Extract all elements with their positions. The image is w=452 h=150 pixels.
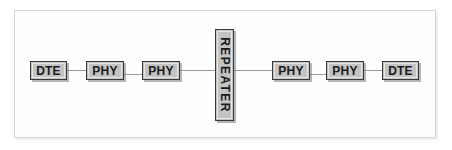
node-label-phy-right-1: PHY [278,65,303,77]
node-phy-left-2[interactable]: PHY [142,61,180,80]
node-label-repeater: REPEATER [219,37,231,113]
node-label-phy-left-2: PHY [148,65,173,77]
node-phy-left-1[interactable]: PHY [86,61,124,80]
node-phy-right-1[interactable]: PHY [272,61,310,80]
node-label-dte-right: DTE [388,65,413,77]
link-repeater-to-phy-right [234,70,272,71]
node-repeater[interactable]: REPEATER [215,29,234,121]
node-dte-left[interactable]: DTE [30,61,67,80]
link-phy-to-dte-right [364,70,382,71]
node-label-phy-right-2: PHY [332,65,357,77]
diagram-canvas: DTE PHY PHY REPEATER PHY PHY DTE [0,0,452,150]
link-phy-to-repeater-left [180,70,215,71]
link-dte-left-to-phy [67,70,86,71]
diagram-root: DTE PHY PHY REPEATER PHY PHY DTE [0,0,452,150]
node-label-phy-left-1: PHY [92,65,117,77]
link-phy-to-phy-right [310,74,326,75]
node-dte-right[interactable]: DTE [382,61,419,80]
node-label-dte-left: DTE [36,65,61,77]
link-phy-to-phy-left [124,74,142,75]
node-phy-right-2[interactable]: PHY [326,61,364,80]
